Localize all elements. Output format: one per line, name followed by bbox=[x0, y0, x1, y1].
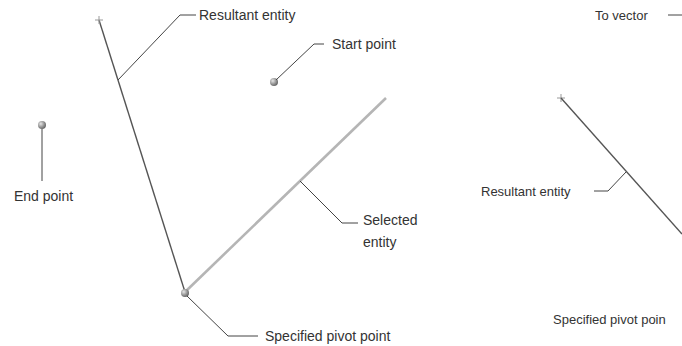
pivot-point-leader bbox=[187, 296, 258, 336]
selected-entity-line bbox=[185, 98, 386, 292]
selected-entity-label-line1: Selected bbox=[363, 212, 417, 228]
resultant-entity-leader-right bbox=[594, 172, 626, 191]
pivot-point-marker bbox=[181, 289, 189, 297]
cross-marker-icon bbox=[95, 16, 103, 24]
end-point-label: End point bbox=[14, 188, 73, 204]
left-diagram: Resultant entity Start point End point S… bbox=[14, 7, 417, 344]
start-point-leader bbox=[276, 44, 324, 80]
rotate-diagram: Resultant entity Start point End point S… bbox=[0, 0, 682, 346]
start-point-label: Start point bbox=[332, 36, 396, 52]
selected-entity-leader bbox=[300, 181, 358, 223]
to-vector-label: To vector bbox=[595, 8, 648, 23]
end-point-marker bbox=[38, 121, 46, 129]
specified-pivot-point-label-right: Specified pivot poin bbox=[553, 312, 666, 327]
resultant-entity-label: Resultant entity bbox=[199, 7, 296, 23]
resultant-entity-line-right bbox=[561, 98, 682, 234]
resultant-entity-line bbox=[99, 20, 185, 292]
resultant-entity-label-right: Resultant entity bbox=[481, 184, 571, 199]
selected-entity-label-line2: entity bbox=[363, 234, 396, 250]
right-diagram: To vector Resultant entity Specified piv… bbox=[481, 8, 682, 327]
resultant-entity-leader bbox=[118, 15, 196, 80]
specified-pivot-point-label: Specified pivot point bbox=[265, 328, 390, 344]
